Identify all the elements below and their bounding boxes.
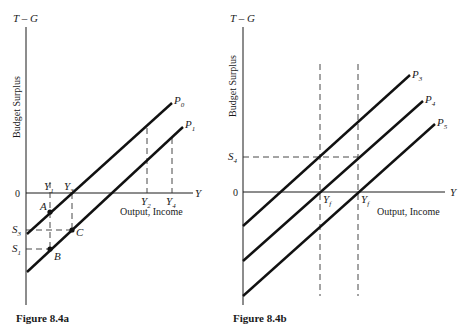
- label-c: C: [76, 226, 84, 238]
- label-p1: P1: [184, 118, 195, 133]
- label-p4: P4: [424, 93, 436, 108]
- budget-line-p4: [243, 101, 423, 261]
- label-p5: P5: [436, 116, 448, 131]
- label-p0: P0: [173, 94, 185, 109]
- origin-label: 0: [233, 187, 238, 198]
- caption-figure-b: Figure 8.4b: [233, 312, 287, 324]
- point-b: [47, 246, 52, 251]
- x-axis-title: Output, Income: [377, 206, 440, 217]
- y-axis-label: T – G: [230, 12, 255, 24]
- y-axis-title: Budget Surplus: [227, 55, 238, 117]
- figure-8-4a: T – G Budget Surplus Y Output, Income 0 …: [11, 12, 203, 324]
- origin-label: 0: [15, 188, 20, 199]
- budget-surplus-diagrams: T – G Budget Surplus Y Output, Income 0 …: [0, 0, 464, 334]
- tick-s1: S1: [12, 242, 21, 257]
- x-axis-label: Y: [195, 187, 203, 199]
- label-p3: P3: [411, 68, 423, 83]
- figure-8-4b: T – G Budget Surplus Y Output, Income 0 …: [227, 12, 458, 324]
- y-axis-title: Budget Surplus: [11, 76, 22, 138]
- label-b: B: [54, 250, 61, 262]
- tick-yf-2: Yf: [361, 193, 370, 208]
- caption-figure-a: Figure 8.4a: [16, 312, 69, 324]
- x-axis-label: Y: [450, 186, 458, 198]
- label-a: A: [39, 200, 47, 212]
- tick-yf-1: Yf: [323, 193, 332, 208]
- point-a: [47, 209, 52, 214]
- point-c: [69, 227, 74, 232]
- tick-s3: S3: [12, 223, 22, 238]
- tick-s4: S4: [228, 150, 238, 165]
- y-axis-label: T – G: [13, 12, 38, 24]
